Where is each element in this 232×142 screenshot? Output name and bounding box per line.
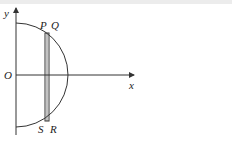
point-p-label: P [39, 19, 47, 31]
point-s-label: S [38, 123, 44, 135]
geometry-figure: y x O P Q S R [0, 0, 232, 142]
y-axis-label: y [3, 7, 9, 19]
x-axis-label: x [128, 79, 134, 91]
point-r-label: R [49, 123, 57, 135]
point-q-label: Q [51, 19, 59, 31]
origin-label: O [4, 69, 12, 81]
diagram-canvas: y x O P Q S R [0, 0, 232, 142]
